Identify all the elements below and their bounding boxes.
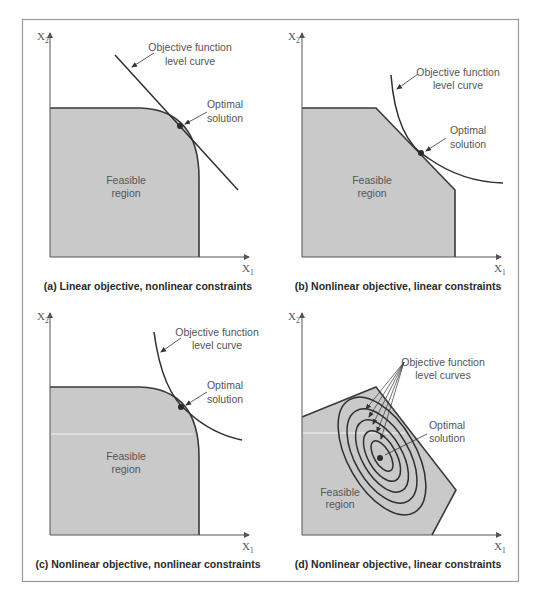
objective-label-2: level curve bbox=[192, 339, 242, 351]
panel-c: Objective function level curve Optimal s… bbox=[35, 310, 260, 570]
objective-label: Objective function bbox=[416, 66, 500, 78]
optimal-label-2: solution bbox=[450, 138, 486, 150]
panel-d: Objective function level curves Optimal … bbox=[288, 310, 506, 570]
objective-label: Objective function bbox=[148, 41, 232, 53]
optimal-pointer bbox=[185, 112, 207, 124]
region-label-2: region bbox=[325, 498, 354, 510]
optimal-point bbox=[178, 404, 184, 410]
region-label-2: region bbox=[111, 463, 140, 475]
optimal-label: Optimal bbox=[207, 98, 243, 110]
optimal-label-2: solution bbox=[429, 432, 465, 444]
region-label: Feasible bbox=[320, 486, 360, 498]
region-label: Feasible bbox=[106, 174, 146, 186]
objective-pointer bbox=[132, 53, 154, 67]
objective-label: Objective function bbox=[175, 326, 259, 338]
objective-pointer bbox=[161, 338, 181, 352]
x-axis-label: X1 bbox=[494, 262, 506, 277]
optimal-point bbox=[418, 150, 424, 156]
objective-label: Objective function bbox=[401, 356, 485, 368]
region-label-2: region bbox=[111, 187, 140, 199]
objective-label-2: level curve bbox=[433, 79, 483, 91]
optimal-pointer bbox=[426, 138, 446, 151]
x-axis-label: X1 bbox=[242, 262, 254, 277]
objective-label-2: level curve bbox=[165, 55, 215, 67]
panel-caption: (c) Nonlinear objective, nonlinear const… bbox=[35, 558, 260, 570]
panel-caption: (d) Nonlinear objective, linear constrai… bbox=[295, 558, 502, 570]
panel-b: Objective function level curve Optimal s… bbox=[288, 30, 506, 292]
optimal-pointer bbox=[186, 392, 207, 405]
panel-caption: (b) Nonlinear objective, linear constrai… bbox=[295, 280, 502, 292]
region-label: Feasible bbox=[352, 174, 392, 186]
objective-label-2: level curves bbox=[415, 369, 470, 381]
optimal-point bbox=[177, 123, 183, 129]
x-axis-label: X1 bbox=[494, 540, 506, 555]
optimal-label: Optimal bbox=[429, 419, 465, 431]
y-axis-label: X2 bbox=[288, 310, 300, 325]
optimal-point bbox=[377, 455, 383, 461]
optimal-label: Optimal bbox=[450, 124, 486, 136]
objective-pointer bbox=[397, 74, 418, 89]
region-label: Feasible bbox=[106, 450, 146, 462]
optimal-label-2: solution bbox=[207, 393, 243, 405]
y-axis-label: X2 bbox=[288, 30, 300, 45]
optimal-label: Optimal bbox=[207, 379, 243, 391]
optimal-label-2: solution bbox=[207, 112, 243, 124]
y-axis-label: X2 bbox=[37, 30, 49, 45]
optimization-figure: Objective function level curve Optimal s… bbox=[0, 0, 541, 602]
y-axis-label: X2 bbox=[37, 310, 49, 325]
panel-a: Objective function level curve Optimal s… bbox=[37, 30, 254, 292]
region-label-2: region bbox=[357, 187, 386, 199]
panel-caption: (a) Linear objective, nonlinear constrai… bbox=[44, 280, 252, 292]
x-axis-label: X1 bbox=[242, 540, 254, 555]
